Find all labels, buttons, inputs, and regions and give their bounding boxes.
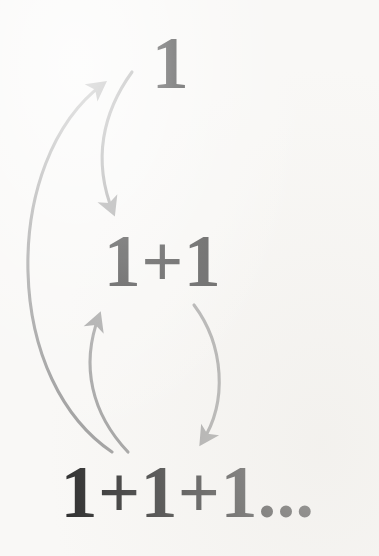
diagram-canvas: 1 1+1 1+1+1...: [0, 0, 379, 556]
expression-level-2: 1+1: [0, 224, 352, 298]
expression-level-3: 1+1+1...: [0, 455, 377, 529]
expression-level-1: 1: [0, 26, 360, 100]
arrow-up-lower: [90, 316, 128, 452]
arrow-down-lower: [194, 305, 219, 442]
